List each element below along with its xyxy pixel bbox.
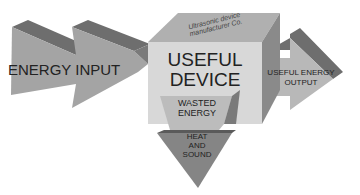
wasted-label-line1: WASTED bbox=[165, 99, 229, 108]
heat-label-line1: HEAT bbox=[170, 133, 224, 141]
output-label-line2: OUTPUT bbox=[258, 79, 344, 87]
device-label-line1: USEFUL bbox=[150, 50, 260, 69]
heat-label-line3: SOUND bbox=[170, 151, 224, 159]
heat-label-line2: AND bbox=[170, 142, 224, 150]
wasted-label-line2: ENERGY bbox=[165, 109, 229, 118]
energy-diagram: ENERGY INPUT Ultrasonic device manufactu… bbox=[0, 0, 360, 195]
energy-input-label: ENERGY INPUT bbox=[8, 62, 120, 77]
output-label-line1: USEFUL ENERGY bbox=[258, 69, 344, 77]
device-label-line2: DEVICE bbox=[150, 70, 260, 89]
